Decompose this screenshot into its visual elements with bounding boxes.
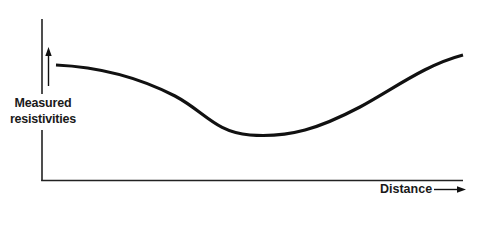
x-axis-label: Distance	[380, 182, 432, 197]
x-arrow-icon	[434, 186, 466, 192]
y-axis-label-line-2: resistivities	[0, 112, 86, 127]
y-axis-label-line-1: Measured	[0, 96, 86, 111]
y-arrow-icon	[45, 47, 51, 86]
resistivity-curve	[56, 55, 463, 136]
